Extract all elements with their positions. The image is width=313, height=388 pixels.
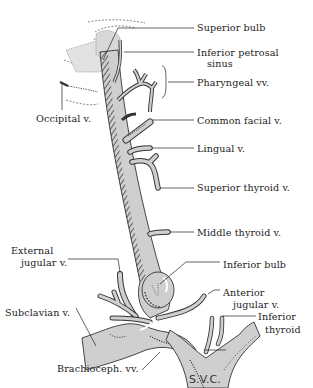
- occipital-vein: [60, 82, 98, 92]
- label-external-jugular-vein: External: [11, 245, 53, 256]
- label-subclavian-vein: Subclavian v.: [5, 307, 70, 318]
- middle-thyroid-vein: [150, 232, 168, 234]
- label-superior-thyroid-vein: Superior thyroid v.: [197, 182, 290, 193]
- label-brachiocephalic-veins: Brachioceph. vv.: [57, 363, 139, 374]
- label-superior-bulb: Superior bulb: [197, 22, 265, 33]
- lingual-vein: [130, 148, 150, 152]
- label-inferior-bulb: Inferior bulb: [223, 259, 286, 270]
- label-lingual-vein: Lingual v.: [197, 143, 245, 154]
- label-anterior-jugular-vein-line2: jugular v.: [233, 299, 279, 310]
- internal-jugular-vein: [100, 50, 174, 318]
- label-inferior-petrosal-sinus-line2: sinus: [207, 58, 233, 69]
- label-inferior-thyroid: Inferior: [258, 311, 296, 322]
- label-common-facial-vein: Common facial v.: [197, 115, 282, 126]
- label-anterior-jugular-vein: Anterior: [223, 287, 264, 298]
- label-inferior-petrosal-sinus: Inferior petrosal: [197, 47, 279, 58]
- label-occipital-vein: Occipital v.: [36, 113, 91, 124]
- inferior-thyroid-veins: [206, 318, 222, 352]
- label-inferior-thyroid-line2: thyroid: [265, 324, 301, 335]
- label-external-jugular-vein-line2: jugular v.: [21, 257, 67, 268]
- label-middle-thyroid-vein: Middle thyroid v.: [197, 227, 281, 238]
- label-pharyngeal-veins: Pharyngeal vv.: [197, 77, 269, 88]
- jugular-vein-diagram: Superior bulb Inferior petrosal sinus Ph…: [0, 0, 313, 388]
- label-svc: S.V.C.: [189, 374, 221, 385]
